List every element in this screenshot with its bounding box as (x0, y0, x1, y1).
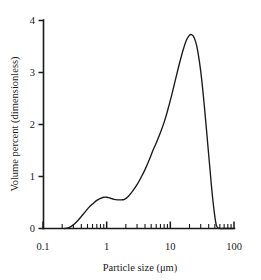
y-tick-label: 1 (30, 171, 35, 182)
x-tick-label: 100 (226, 241, 242, 252)
x-tick-label: 10 (165, 241, 176, 252)
y-axis-tick-labels: 4 3 2 1 0 (30, 15, 36, 234)
x-tick-label: 1 (104, 241, 109, 252)
y-tick-label: 4 (30, 15, 36, 26)
y-axis-title: Volume percent (dimensionless) (9, 56, 21, 192)
x-axis-title: Particle size (μm) (103, 262, 178, 274)
x-axis-ticks (43, 222, 234, 229)
y-tick-label: 3 (30, 67, 35, 78)
chart-figure: 4 3 2 1 0 0.1 1 10 100 Particle size (μm… (0, 0, 261, 280)
distribution-curve (65, 34, 234, 228)
x-axis-tick-labels: 0.1 1 10 100 (36, 241, 241, 252)
y-tick-label: 0 (30, 223, 35, 234)
x-tick-label: 0.1 (36, 241, 49, 252)
particle-size-distribution-chart: 4 3 2 1 0 0.1 1 10 100 Particle size (μm… (0, 0, 261, 280)
y-tick-label: 2 (30, 119, 35, 130)
